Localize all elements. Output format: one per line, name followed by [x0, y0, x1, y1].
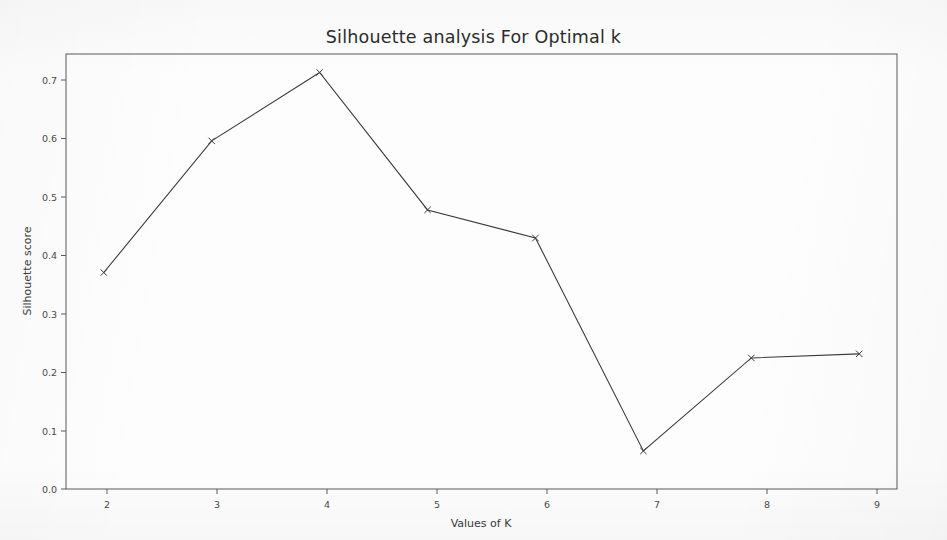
y-tick-label: 0.1 — [42, 426, 57, 437]
y-tick-label: 0.5 — [42, 192, 57, 203]
y-tick-0.0: 0.0 — [42, 484, 66, 495]
data-point-markers — [101, 69, 863, 454]
x-tick-label: 9 — [874, 499, 880, 510]
data-point-marker — [424, 207, 430, 213]
y-tick-0.7: 0.7 — [42, 75, 66, 86]
y-tick-0.5: 0.5 — [42, 192, 66, 203]
x-tick-8: 8 — [764, 489, 770, 510]
x-axis-title: Values of K — [451, 517, 513, 530]
x-axis: 2 3 4 5 6 7 8 — [104, 489, 880, 510]
x-tick-label: 8 — [764, 499, 770, 510]
silhouette-line-chart: 0.7 0.6 0.5 0.4 0.3 0.2 — [0, 0, 947, 540]
y-tick-label: 0.0 — [42, 484, 57, 495]
data-series-line — [104, 72, 859, 451]
chart-screenshot: Silhouette analysis For Optimal k 0.7 0.… — [0, 0, 947, 540]
y-tick-0.1: 0.1 — [42, 426, 66, 437]
y-tick-0.2: 0.2 — [42, 367, 66, 378]
x-tick-5: 5 — [434, 489, 440, 510]
x-tick-6: 6 — [544, 489, 550, 510]
y-tick-label: 0.6 — [42, 133, 57, 144]
plot-frame — [66, 54, 897, 489]
x-tick-4: 4 — [324, 489, 330, 510]
y-tick-label: 0.7 — [42, 75, 57, 86]
data-point-marker — [101, 269, 107, 275]
x-tick-label: 7 — [654, 499, 660, 510]
x-tick-3: 3 — [214, 489, 220, 510]
data-point-marker — [532, 235, 538, 241]
data-point-marker — [640, 448, 646, 454]
y-axis-title: Silhouette score — [21, 226, 34, 315]
x-tick-7: 7 — [654, 489, 660, 510]
y-tick-0.3: 0.3 — [42, 309, 66, 320]
y-tick-label: 0.2 — [42, 367, 57, 378]
x-tick-label: 6 — [544, 499, 550, 510]
x-tick-label: 2 — [104, 499, 110, 510]
data-point-marker — [316, 69, 322, 75]
x-tick-label: 4 — [324, 499, 330, 510]
x-tick-9: 9 — [874, 489, 880, 510]
x-tick-label: 3 — [214, 499, 220, 510]
x-tick-label: 5 — [434, 499, 440, 510]
y-tick-0.4: 0.4 — [42, 250, 66, 261]
x-tick-2: 2 — [104, 489, 110, 510]
y-axis: 0.7 0.6 0.5 0.4 0.3 0.2 — [42, 75, 66, 495]
y-tick-label: 0.4 — [42, 250, 57, 261]
y-tick-0.6: 0.6 — [42, 133, 66, 144]
data-point-marker — [208, 138, 214, 144]
y-tick-label: 0.3 — [42, 309, 57, 320]
